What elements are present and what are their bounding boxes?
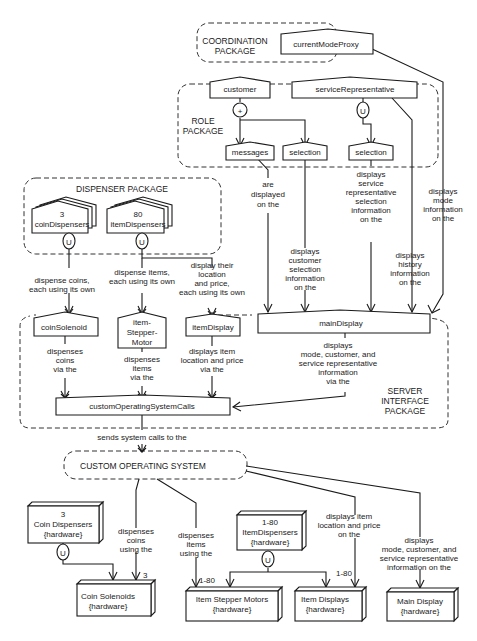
svg-text:service representative: service representative bbox=[299, 359, 378, 368]
node-item-display[interactable]: itemDisplay bbox=[186, 314, 240, 336]
hw-coin-solenoids[interactable]: Coin Solenoids {hardware} bbox=[77, 580, 155, 616]
coordination-package-label-2: PACKAGE bbox=[215, 46, 256, 56]
label-hw-display-item: displays item location and price on the bbox=[318, 512, 381, 539]
svg-text:3: 3 bbox=[60, 210, 65, 219]
multiplicity-stepper-motors: 1-80 bbox=[199, 576, 216, 585]
svg-text:using the: using the bbox=[180, 549, 213, 558]
label-history: displays history information on the bbox=[390, 251, 430, 287]
svg-text:displays: displays bbox=[429, 187, 458, 196]
svg-text:Motor: Motor bbox=[132, 338, 153, 347]
label-hw-coins: dispenses coins using the bbox=[118, 527, 154, 554]
svg-text:via the: via the bbox=[326, 377, 350, 386]
server-interface-label-3: PACKAGE bbox=[385, 406, 426, 416]
svg-text:itemDisplay: itemDisplay bbox=[192, 323, 233, 332]
label-sends-calls: sends system calls to the bbox=[97, 433, 187, 442]
svg-text:displays: displays bbox=[324, 341, 353, 350]
node-item-stepper-motor[interactable]: item- Stepper- Motor bbox=[118, 312, 166, 348]
svg-text:displays: displays bbox=[405, 536, 434, 545]
node-main-display[interactable]: mainDisplay bbox=[258, 310, 430, 333]
node-service-representative[interactable]: serviceRepresentative bbox=[292, 77, 417, 98]
svg-text:mode: mode bbox=[433, 196, 454, 205]
svg-text:information: information bbox=[351, 206, 391, 215]
svg-text:on the: on the bbox=[338, 530, 361, 539]
label-customer-selection: displays customer selection information … bbox=[285, 247, 325, 292]
label-service-selection: displays service representative selectio… bbox=[346, 170, 397, 224]
label-dispense-coins: dispense coins, each using its own bbox=[29, 276, 95, 294]
svg-text:history: history bbox=[398, 260, 422, 269]
svg-text:selection: selection bbox=[355, 148, 387, 157]
node-item-dispensers[interactable]: 80 itemDispensers bbox=[107, 197, 172, 233]
node-current-mode-proxy[interactable]: currentModeProxy bbox=[281, 29, 373, 54]
label-display-via: displays item location and price via the bbox=[181, 347, 244, 374]
customer-plus-icon: + bbox=[233, 98, 247, 117]
hw-item-union-icon: U bbox=[262, 551, 274, 567]
svg-text:information: information bbox=[390, 269, 430, 278]
node-service-selection[interactable]: selection bbox=[349, 142, 393, 160]
svg-text:each using its own: each using its own bbox=[179, 288, 245, 297]
svg-text:displays: displays bbox=[357, 170, 386, 179]
svg-text:dispenses: dispenses bbox=[47, 347, 83, 356]
svg-text:displays: displays bbox=[396, 251, 425, 260]
service-union-icon: U bbox=[357, 98, 369, 118]
svg-text:information on the: information on the bbox=[387, 563, 452, 572]
role-package-label: ROLE bbox=[191, 116, 214, 126]
label-dispense-items: dispense items, each using its own bbox=[109, 268, 175, 286]
dispenser-package-label: DISPENSER PACKAGE bbox=[76, 184, 168, 194]
server-interface-label: SERVER bbox=[388, 386, 423, 396]
node-customer[interactable]: customer bbox=[210, 77, 270, 98]
hw-item-stepper-motors[interactable]: Item Stepper Motors {hardware} bbox=[186, 587, 282, 621]
label-display-location: display their location and price, each u… bbox=[179, 261, 245, 297]
label-coin-via: dispenses coins via the bbox=[47, 347, 83, 374]
svg-text:messages: messages bbox=[232, 148, 268, 157]
node-coin-solenoid[interactable]: coinSolenoid bbox=[34, 312, 98, 336]
node-customer-selection[interactable]: selection bbox=[283, 142, 327, 160]
svg-text:U: U bbox=[265, 556, 271, 565]
svg-text:location and price: location and price bbox=[318, 521, 381, 530]
svg-text:on the: on the bbox=[432, 214, 455, 223]
svg-text:displays item: displays item bbox=[189, 347, 236, 356]
svg-text:displayed: displayed bbox=[251, 190, 285, 199]
svg-text:information: information bbox=[318, 368, 358, 377]
svg-text:coinDispensers: coinDispensers bbox=[35, 220, 90, 229]
svg-text:{hardware}: {hardware} bbox=[44, 530, 83, 539]
custom-os-package: CUSTOM OPERATING SYSTEM bbox=[64, 451, 247, 479]
svg-text:customer: customer bbox=[224, 85, 257, 94]
hw-coin-dispensers[interactable]: 3 Coin Dispensers {hardware} bbox=[28, 502, 103, 543]
hw-item-dispensers[interactable]: 1-80 ItemDispensers {hardware} bbox=[237, 511, 306, 550]
custom-os-label: CUSTOM OPERATING SYSTEM bbox=[80, 461, 206, 471]
svg-text:dispense items,: dispense items, bbox=[114, 268, 170, 277]
svg-text:displays: displays bbox=[291, 247, 320, 256]
svg-text:selection: selection bbox=[289, 265, 321, 274]
svg-text:Coin Dispensers: Coin Dispensers bbox=[34, 520, 93, 529]
svg-text:via the: via the bbox=[53, 365, 77, 374]
svg-text:customOperatingSystemCalls: customOperatingSystemCalls bbox=[89, 402, 194, 411]
hw-main-display[interactable]: Main Display {hardware} bbox=[387, 588, 458, 621]
multiplicity-item-displays: 1-80 bbox=[336, 569, 353, 578]
node-custom-os-calls[interactable]: customOperatingSystemCalls bbox=[56, 395, 230, 415]
svg-text:currentModeProxy: currentModeProxy bbox=[293, 40, 358, 49]
multiplicity-coin-solenoids: 3 bbox=[143, 571, 148, 580]
svg-text:selection: selection bbox=[355, 197, 387, 206]
svg-text:serviceRepresentative: serviceRepresentative bbox=[315, 85, 395, 94]
hw-item-displays[interactable]: Item Displays {hardware} bbox=[295, 587, 366, 621]
node-messages[interactable]: messages bbox=[226, 142, 274, 160]
svg-text:{hardware}: {hardware} bbox=[401, 607, 440, 616]
node-coin-dispensers[interactable]: 3 coinDispensers bbox=[32, 197, 96, 233]
svg-text:and price,: and price, bbox=[194, 279, 229, 288]
svg-text:+: + bbox=[238, 107, 243, 116]
svg-text:display their: display their bbox=[191, 261, 234, 270]
svg-text:via the: via the bbox=[200, 365, 224, 374]
svg-text:U: U bbox=[360, 107, 366, 116]
svg-text:on the: on the bbox=[257, 200, 280, 209]
server-interface-label-2: INTERFACE bbox=[381, 396, 429, 406]
svg-text:service: service bbox=[358, 179, 384, 188]
svg-text:U: U bbox=[60, 549, 66, 558]
label-items-via: dispenses items via the bbox=[124, 355, 160, 382]
role-package-label-2: PACKAGE bbox=[183, 126, 224, 136]
svg-text:using the: using the bbox=[120, 545, 153, 554]
svg-text:on the: on the bbox=[294, 283, 317, 292]
item-union-icon: U bbox=[136, 233, 148, 249]
svg-text:each using its own: each using its own bbox=[109, 277, 175, 286]
coordination-package-label: COORDINATION bbox=[202, 36, 267, 46]
svg-text:Item Stepper Motors: Item Stepper Motors bbox=[196, 595, 268, 604]
